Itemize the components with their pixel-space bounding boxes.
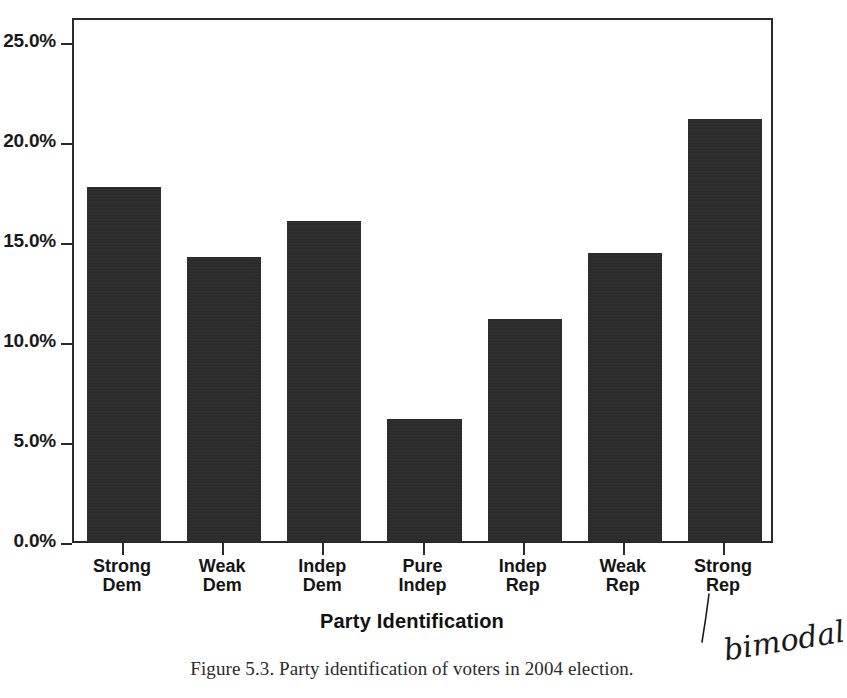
y-tick-label-0: 0.0% (0, 530, 56, 552)
bar-7 (688, 119, 762, 541)
bar-3 (287, 221, 361, 541)
x-tick-label-0: Strong Dem (67, 557, 177, 595)
figure-caption: Figure 5.3. Party identification of vote… (0, 658, 824, 680)
x-tick-label-6: Strong Rep (668, 557, 778, 595)
x-tick-label-4: Indep Rep (468, 557, 578, 595)
y-tick-5 (61, 43, 72, 45)
x-tick-label-5: Weak Rep (568, 557, 678, 595)
y-tick-label-3: 15.0% (0, 230, 56, 252)
x-tick-0 (122, 543, 124, 555)
y-tick-3 (61, 243, 72, 245)
y-tick-2 (61, 343, 72, 345)
y-tick-4 (61, 143, 72, 145)
y-tick-label-4: 20.0% (0, 130, 56, 152)
y-tick-1 (61, 443, 72, 445)
bar-6 (588, 253, 662, 541)
y-tick-0 (61, 543, 72, 545)
y-tick-label-5: 25.0% (0, 30, 56, 52)
x-tick-label-1: Weak Dem (167, 557, 277, 595)
bar-2 (187, 257, 261, 541)
x-tick-5 (623, 543, 625, 555)
bar-4 (387, 419, 461, 541)
x-tick-3 (423, 543, 425, 555)
x-tick-6 (723, 543, 725, 555)
y-tick-label-2: 10.0% (0, 330, 56, 352)
x-axis-title: Party Identification (0, 610, 824, 633)
y-tick-label-1: 5.0% (0, 430, 56, 452)
x-tick-label-3: Pure Indep (368, 557, 478, 595)
bar-1 (87, 187, 161, 541)
plot-area (72, 18, 773, 543)
bars-layer (74, 20, 771, 541)
x-tick-label-2: Indep Dem (267, 557, 377, 595)
x-tick-4 (523, 543, 525, 555)
x-tick-1 (222, 543, 224, 555)
bar-5 (488, 319, 562, 541)
x-tick-2 (322, 543, 324, 555)
